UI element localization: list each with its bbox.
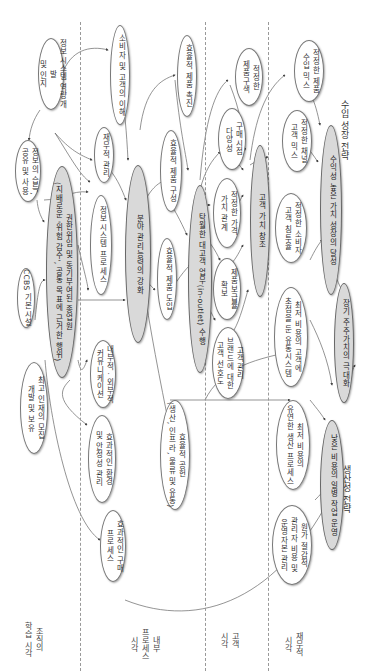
node-label: 적정한 채널 고객 믹스: [287, 119, 307, 163]
node-environment-safety[interactable]: 효과적인 환경 및 안정성 관리: [88, 415, 116, 503]
node-label: 내부적 · 외부적 커뮤니케이션: [93, 345, 113, 403]
node-profitable-growth[interactable]: 수익성 높은 가치 성장의 달성: [320, 125, 342, 295]
node-empowered-employees[interactable]: 권한위임 및 동기부여된 종업원 (지배로운 '위험 감수', 공통 목표에 근…: [46, 166, 78, 378]
node-label: 효과적인 환경 및 안정성 관리: [92, 431, 112, 486]
node-revenue-mix[interactable]: 적정한 제품 수입 믹스: [294, 40, 324, 102]
node-consumer-understanding[interactable]: 소비자 및 고객의 이해: [110, 25, 130, 125]
node-low-cost-production[interactable]: 최저 비용의 유연한 생산 프로세스: [276, 400, 310, 490]
node-label: 정보시스템 프로세스: [96, 206, 106, 283]
node-label: 적정한 제품 수입 믹스: [299, 49, 319, 93]
node-low-cost-operations[interactable]: 낮은 비용의 일병 작업 운영: [320, 420, 344, 550]
node-label: 제품보급률 확보: [217, 268, 237, 310]
perspective-internal-label: 내부 프로세스 시각: [128, 628, 161, 660]
node-label: 구매시점 다양성: [222, 122, 242, 155]
node-label: 낮은 비용의 일병 작업 운영: [327, 434, 337, 536]
node-label: 효율적 제품 구성: [166, 139, 176, 202]
node-optimal-assortment[interactable]: 적정한 제품구색: [235, 48, 263, 106]
divider-customer-financial: [268, 22, 269, 671]
node-label: 적정한 가격 가치 관계: [217, 191, 237, 235]
node-label: 적정한 제품구색: [239, 60, 259, 93]
node-label: 고객 가치 창조: [255, 193, 265, 248]
divider-learning-internal: [80, 22, 81, 671]
node-label: 권한위임 및 동기부여된 종업원 (지배로운 '위험 감수', 공통 목표에 근…: [52, 182, 72, 361]
node-label: 효율적 제품 촉진: [182, 44, 192, 107]
node-communication[interactable]: 내부적 · 외부적 커뮤니케이션: [90, 340, 116, 408]
node-is-process[interactable]: 정보시스템 프로세스: [90, 195, 112, 295]
node-label: 분야 관리능력의 강화: [133, 214, 143, 294]
node-efficient-supply[interactable]: 효율적 공헌 (생산, 인프라, 물류 및 유통): [160, 400, 190, 510]
perspective-learning-label: 조직의 학습 시각: [22, 622, 44, 657]
node-label: 고객관리 브랜드에 대한 고객 선호도: [213, 337, 243, 389]
node-channel-mix[interactable]: 적정한 채널 고객 믹스: [282, 110, 312, 172]
perspective-financial-label: 재무적 시각: [282, 632, 304, 656]
node-brand-preference[interactable]: 고객관리 브랜드에 대한 고객 선호도: [212, 327, 244, 399]
node-product-introduction[interactable]: 효율적 제품 도입: [157, 238, 177, 320]
node-label: 장기 주주가치의 극대화: [339, 299, 349, 387]
node-label: 재무적 관리: [99, 133, 109, 177]
node-overhead-mgmt[interactable]: 원가 절감적 관리자 비용 및 운영자본 관리: [272, 505, 312, 585]
perspective-customer-label: 고객 시각: [218, 632, 240, 648]
node-product-composition[interactable]: 효율적 제품 구성: [160, 130, 182, 212]
node-label: 최저 비용의 유연한 생산 프로세스: [283, 405, 303, 485]
node-label: 최저 비용의 고객에 초점을 둔 유통시스템: [281, 297, 301, 377]
node-info-sharing[interactable]: 정보의 습득, 공유 및 사용: [15, 140, 41, 202]
node-key-account[interactable]: 탁월한 대고객 업무(in-outlet) 수행: [188, 185, 212, 373]
node-coverage[interactable]: 제품보급률 확보: [213, 258, 241, 320]
node-label: 효율적 제품 도입: [162, 247, 172, 310]
node-label: 효과적인 구매 프로세스: [103, 520, 123, 572]
node-purchase-diversity[interactable]: 구매시점 다양성: [218, 108, 246, 170]
node-is-capability[interactable]: 정보시스템 역량개발 및 인지: [38, 38, 64, 110]
node-talent[interactable]: 최고 인재의 모집 개발 및 보유: [20, 362, 48, 454]
strategy-map: 조직의 학습 시각 내부 프로세스 시각 고객 시각 재무적 시각 수입 성장 …: [0, 0, 374, 671]
node-price-value[interactable]: 적정한 가격 가치 관계: [213, 178, 241, 248]
node-customer-value[interactable]: 고객 가치 창조: [250, 145, 270, 297]
node-label: 적정한 소비자 고객 침투율: [281, 202, 301, 254]
node-label: 정보의 습득, 공유 및 사용: [18, 148, 38, 195]
node-purchasing[interactable]: 효과적인 구매 프로세스: [100, 510, 126, 582]
node-low-cost-distribution[interactable]: 최저 비용의 고객에 초점을 둔 유통시스템: [274, 287, 308, 387]
node-label: 탁월한 대고객 업무(in-outlet) 수행: [195, 213, 205, 345]
node-label: 정보시스템 역량개발 및 인지: [36, 39, 66, 109]
strategy-revenue-growth-label: 수입 성장 전략: [338, 100, 351, 160]
node-label: 수익성 높은 가치 성장의 달성: [326, 155, 336, 265]
node-label: 최고 인재의 모집 개발 및 보유: [24, 376, 44, 439]
node-field-capability[interactable]: 분야 관리능력의 강화: [125, 165, 151, 343]
node-label: 효율적 공헌 (생산, 인프라, 물류 및 유통): [165, 402, 185, 508]
node-finance-mgmt[interactable]: 재무적 관리: [94, 127, 114, 183]
node-consumer-penetration[interactable]: 적정한 소비자 고객 침투율: [275, 193, 307, 263]
node-label: 소비자 및 고객의 이해: [115, 34, 125, 117]
node-product-promotion[interactable]: 효율적 제품 촉진: [177, 35, 197, 117]
node-ccbs[interactable]: CCBS 기본시설: [17, 268, 35, 328]
node-shareholder-value[interactable]: 장기 주주가치의 극대화: [334, 283, 354, 403]
node-label: CCBS 기본시설: [21, 269, 31, 326]
node-label: 원가 절감적 관리자 비용 및 운영자본 관리: [277, 517, 307, 572]
